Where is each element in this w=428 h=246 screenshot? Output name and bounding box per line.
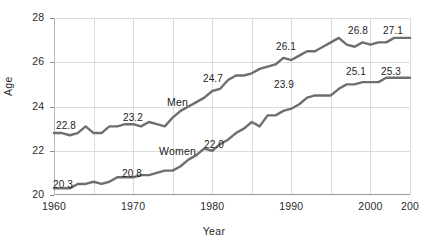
value-label-men-1980: 24.7: [203, 73, 223, 84]
value-label-men-2000: 26.8: [348, 25, 368, 36]
x-axis-tick-label: 1980: [200, 200, 224, 212]
x-axis-tick-label: 1970: [121, 200, 145, 212]
value-label-women-2000: 25.1: [346, 66, 366, 77]
value-label-women-1990: 23.9: [274, 79, 294, 90]
y-axis-tick-label: 28: [0, 11, 52, 23]
x-axis-tick-label: 200: [401, 200, 419, 212]
x-axis-tick-label: 1960: [42, 200, 66, 212]
value-label-men-2005: 27.1: [383, 25, 403, 36]
plot-area: [54, 18, 410, 195]
line-chart: Age Year 2022242628 19601970198019902000…: [0, 0, 428, 246]
value-label-men-1960: 22.8: [56, 120, 76, 131]
x-axis-title: Year: [0, 225, 428, 237]
gridline-horizontal: [54, 62, 410, 63]
x-axis-tick-label: 2000: [358, 200, 382, 212]
value-label-women-1960: 20.3: [53, 179, 73, 190]
y-axis-line: [54, 18, 55, 195]
men-series-label: Men: [167, 96, 188, 108]
gridline-vertical: [410, 18, 411, 195]
x-axis-line: [54, 194, 410, 195]
y-axis-tick-label: 22: [0, 144, 52, 156]
value-label-women-1970: 20.8: [122, 168, 142, 179]
y-axis-tick-label: 26: [0, 55, 52, 67]
value-label-women-1980: 22.0: [204, 139, 224, 150]
y-axis-tick-mark: [50, 195, 54, 196]
value-label-women-2005: 25.3: [381, 66, 401, 77]
gridline-horizontal: [54, 107, 410, 108]
y-axis-tick-label: 20: [0, 188, 52, 200]
gridline-horizontal: [54, 18, 410, 19]
y-axis-tick-label: 24: [0, 100, 52, 112]
women-series-label: Women: [159, 145, 196, 157]
y-axis-title: Age: [2, 76, 14, 96]
value-label-men-1990: 26.1: [276, 41, 296, 52]
value-label-men-1970: 23.2: [123, 112, 143, 123]
gridline-horizontal: [54, 151, 410, 152]
x-axis-tick-label: 1990: [279, 200, 303, 212]
